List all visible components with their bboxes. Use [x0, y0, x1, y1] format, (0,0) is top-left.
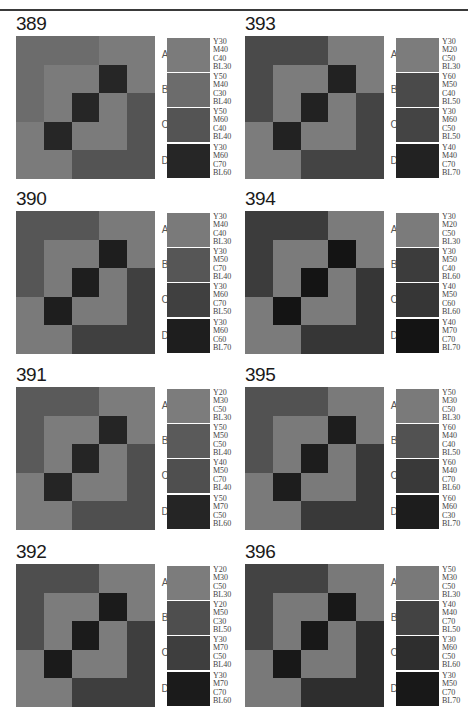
color-spec: Y50M30C50BL30 [442, 566, 468, 600]
grid-cell-c [356, 473, 384, 502]
grid-cell-d [44, 297, 72, 326]
grid-cell-c [72, 501, 100, 530]
grid-cell-b [16, 621, 44, 650]
grid-cell-c [301, 325, 329, 354]
panel-number: 390 [16, 189, 46, 209]
grid-cell-d [301, 444, 329, 473]
panel-number: 389 [16, 14, 46, 34]
grid-cell-a [127, 65, 155, 94]
color-swatch-a [167, 38, 210, 72]
grid-cell-a [328, 650, 356, 679]
grid-cell-d [72, 268, 100, 297]
color-spec: Y30M20C50BL30 [442, 38, 468, 72]
grid-cell-c [127, 150, 155, 179]
grid-cell-a [328, 268, 356, 297]
panel-number: 396 [245, 542, 275, 562]
panel-number: 395 [245, 365, 275, 385]
grid-cell-a [301, 593, 329, 622]
grid-cell-a [301, 240, 329, 269]
grid-cell-a [273, 65, 301, 94]
grid-cell-a [328, 93, 356, 122]
grid-cell-c [356, 93, 384, 122]
grid-cell-a [44, 416, 72, 445]
panel-number: 391 [16, 365, 46, 385]
spec-line: BL50 [213, 308, 247, 316]
grid-cell-c [127, 325, 155, 354]
grid-cell-d [301, 93, 329, 122]
grid-cell-a [16, 122, 44, 151]
spec-line: BL40 [213, 449, 247, 457]
pattern-grid [245, 387, 384, 530]
grid-cell-b [16, 211, 44, 240]
grid-cell-a [301, 416, 329, 445]
top-rule [0, 9, 468, 11]
grid-cell-a [16, 501, 44, 530]
grid-cell-c [356, 150, 384, 179]
grid-cell-c [356, 678, 384, 707]
color-swatch-c [167, 283, 210, 317]
spec-line: BL30 [213, 591, 247, 599]
grid-cell-b [245, 444, 273, 473]
grid-cell-a [127, 240, 155, 269]
spec-line: BL30 [213, 238, 247, 246]
pattern-grid [16, 211, 155, 354]
grid-cell-a [328, 444, 356, 473]
color-swatch-a [167, 566, 210, 600]
spec-line: BL50 [213, 626, 247, 634]
pattern-grid [245, 36, 384, 179]
grid-cell-c [127, 268, 155, 297]
pattern-grid [16, 564, 155, 707]
grid-cell-a [99, 36, 127, 65]
grid-cell-b [16, 268, 44, 297]
color-spec: Y30M20C50BL30 [442, 213, 468, 247]
grid-cell-a [273, 93, 301, 122]
grid-cell-d [328, 240, 356, 269]
color-swatch-c [396, 636, 439, 670]
grid-cell-c [127, 122, 155, 151]
grid-cell-a [127, 387, 155, 416]
color-spec: Y40M70C70BL70 [442, 319, 468, 353]
grid-cell-b [245, 240, 273, 269]
color-swatch-c [396, 459, 439, 493]
spec-line: BL70 [442, 344, 468, 352]
grid-cell-b [16, 93, 44, 122]
grid-cell-c [356, 268, 384, 297]
color-panel-393: 393AY30M20C50BL30BY60M50C40BL50CY30M60C5… [245, 14, 468, 186]
grid-cell-a [16, 150, 44, 179]
grid-cell-a [356, 240, 384, 269]
grid-cell-a [273, 678, 301, 707]
color-spec: Y30M40C40BL30 [213, 213, 247, 247]
grid-cell-a [99, 564, 127, 593]
grid-cell-a [99, 211, 127, 240]
grid-cell-b [301, 564, 329, 593]
color-spec: Y60M60C30BL70 [442, 495, 468, 529]
grid-cell-a [99, 473, 127, 502]
color-swatch-a [167, 389, 210, 423]
color-panel-392: 392AY20M30C50BL30BY20M50C30BL50CY30M70C5… [16, 542, 246, 712]
color-spec: Y30M70C50BL40 [213, 636, 247, 670]
color-spec: Y40M40C70BL50 [442, 601, 468, 635]
grid-cell-b [245, 387, 273, 416]
spec-line: BL30 [213, 63, 247, 71]
grid-cell-a [44, 65, 72, 94]
color-spec: Y40M40C70BL70 [442, 144, 468, 178]
grid-cell-c [99, 501, 127, 530]
grid-cell-b [44, 211, 72, 240]
color-swatch-b [396, 248, 439, 282]
color-swatch-d [167, 144, 210, 178]
grid-cell-c [99, 150, 127, 179]
grid-cell-c [72, 325, 100, 354]
grid-cell-a [328, 36, 356, 65]
color-swatch-a [396, 213, 439, 247]
grid-cell-a [245, 325, 273, 354]
spec-line: BL60 [213, 169, 247, 177]
color-swatch-d [396, 495, 439, 529]
grid-cell-b [16, 387, 44, 416]
grid-cell-c [301, 501, 329, 530]
spec-line: BL40 [213, 133, 247, 141]
color-swatch-c [167, 108, 210, 142]
grid-cell-a [72, 65, 100, 94]
grid-cell-a [328, 211, 356, 240]
grid-cell-a [44, 325, 72, 354]
grid-cell-a [328, 122, 356, 151]
